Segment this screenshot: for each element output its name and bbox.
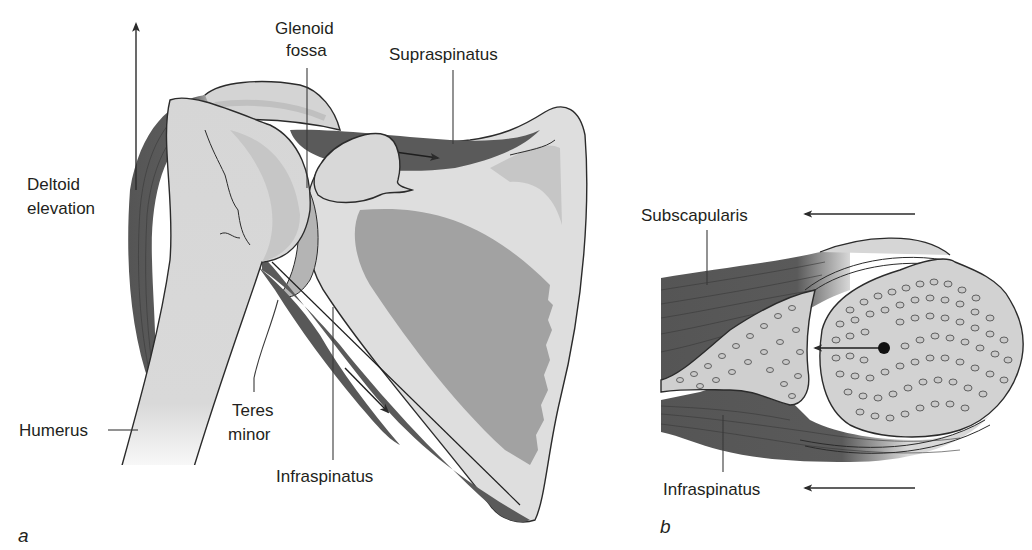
label-glenoid-fossa-1: Glenoid xyxy=(275,19,334,38)
label-teres-minor-2: minor xyxy=(228,425,271,444)
label-deltoid-1: Deltoid xyxy=(27,175,80,194)
label-subscapularis: Subscapularis xyxy=(641,206,748,225)
label-infraspinatus-a: Infraspinatus xyxy=(276,467,373,486)
panel-b: Subscapularis Infraspinatus b xyxy=(641,206,1023,537)
panel-letter-a: a xyxy=(18,525,29,546)
label-glenoid-fossa-2: fossa xyxy=(286,41,327,60)
center-of-rotation-dot xyxy=(878,342,890,354)
panel-a: Glenoid fossa Supraspinatus Deltoid elev… xyxy=(18,19,587,546)
panel-letter-b: b xyxy=(660,516,671,537)
label-teres-minor-1: Teres xyxy=(232,401,274,420)
leader-teres-minor xyxy=(254,300,278,392)
label-infraspinatus-b: Infraspinatus xyxy=(663,480,760,499)
label-deltoid-2: elevation xyxy=(27,199,95,218)
label-humerus: Humerus xyxy=(19,421,88,440)
label-supraspinatus: Supraspinatus xyxy=(389,45,498,64)
shoulder-rotator-cuff-figure: Glenoid fossa Supraspinatus Deltoid elev… xyxy=(0,0,1032,550)
